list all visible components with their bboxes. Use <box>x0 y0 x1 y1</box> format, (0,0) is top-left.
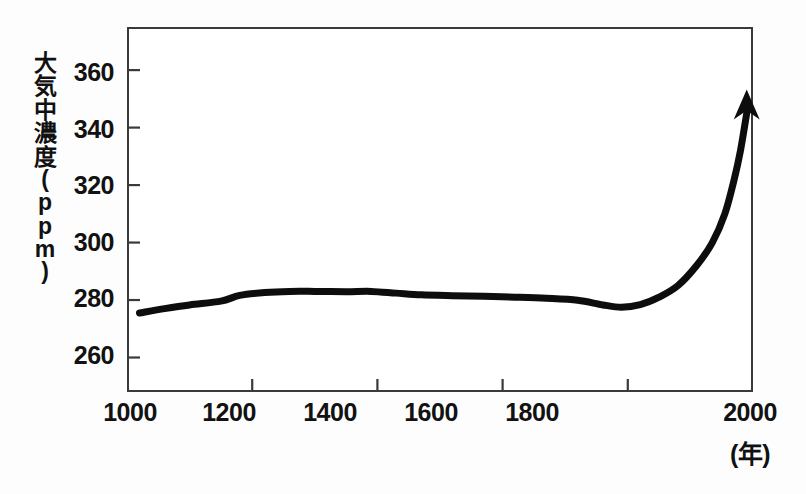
chart-figure: 260 280 300 320 340 360 1000 1200 1400 1… <box>0 0 806 494</box>
x-tick-label-1600: 1600 <box>376 400 486 425</box>
x-axis-title: (年) <box>730 434 770 470</box>
y-axis-title-char-6: p <box>28 191 62 214</box>
y-axis-title-char-7: p <box>28 215 62 238</box>
x-tick-label-1400: 1400 <box>275 400 385 425</box>
x-tick-label-1200: 1200 <box>174 400 284 425</box>
y-axis-title-char-0: 大 <box>28 52 62 75</box>
x-tick-label-1000: 1000 <box>75 400 185 425</box>
y-axis-title-char-1: 気 <box>28 75 62 98</box>
x-tick-label-2000: 2000 <box>695 400 805 425</box>
y-axis-title-char-9: ) <box>28 261 62 283</box>
y-axis-title: 大 気 中 濃 度 ( p p m ) <box>28 52 62 283</box>
y-axis-title-char-2: 中 <box>28 99 62 122</box>
y-axis-title-char-5: ( <box>28 169 62 191</box>
x-tick-label-1800: 1800 <box>477 400 587 425</box>
y-axis-title-char-3: 濃 <box>28 122 62 145</box>
x-axis-tick-labels: 1000 1200 1400 1600 1800 2000 <box>0 0 806 494</box>
